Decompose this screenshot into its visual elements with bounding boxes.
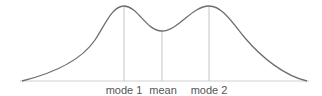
distribution-curve [22, 6, 307, 81]
mode1-label: mode 1 [106, 84, 143, 96]
mode2-label: mode 2 [191, 84, 228, 96]
mean-label: mean [149, 84, 177, 96]
bimodal-distribution-diagram: mode 1 mean mode 2 [0, 0, 322, 96]
